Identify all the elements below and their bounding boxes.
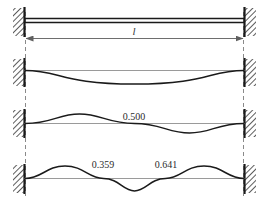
support-hatching-icon — [13, 59, 24, 86]
support-hatching-icon — [245, 59, 256, 86]
mode-2-node-label: 0.500 — [123, 111, 146, 122]
support-hatching-icon — [245, 165, 256, 193]
right-support-row4 — [245, 164, 257, 194]
support-hatching-icon — [245, 8, 256, 36]
mode-3-node-label-left: 0.359 — [92, 159, 115, 170]
left-support-row3 — [13, 109, 25, 138]
support-hatching-icon — [13, 8, 24, 36]
left-support-row2 — [13, 58, 25, 87]
support-hatching-icon — [13, 165, 24, 193]
left-support-row4 — [13, 164, 25, 194]
left-support-row1 — [13, 7, 25, 37]
beam-mode-shape-diagram: l — [0, 0, 266, 200]
right-support-row2 — [245, 58, 257, 87]
span-length-label: l — [132, 25, 135, 37]
support-hatching-icon — [13, 110, 24, 137]
mode-3-node-label-right: 0.641 — [155, 159, 178, 170]
right-support-row1 — [245, 7, 257, 37]
right-support-row3 — [245, 109, 257, 138]
support-hatching-icon — [245, 110, 256, 137]
